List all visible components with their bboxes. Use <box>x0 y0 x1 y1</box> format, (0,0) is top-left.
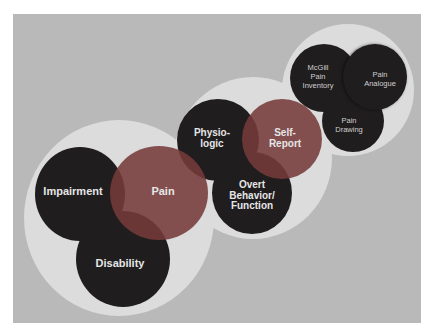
label-impairment: Impairment <box>43 186 102 198</box>
label-mcgill-pain-inventory: McGill Pain Inventory <box>303 63 334 90</box>
label-overt-behavior-function: Overt Behavior/ Function <box>229 180 275 212</box>
label-self-report: Self- Report <box>269 128 301 149</box>
label-disability: Disability <box>96 258 145 270</box>
label-pain: Pain <box>151 186 174 198</box>
label-pain-analogue: Pain Analogue <box>364 70 396 88</box>
label-physiologic: Physio- logic <box>194 128 230 149</box>
label-pain-drawing: Pain Drawing <box>335 116 363 134</box>
